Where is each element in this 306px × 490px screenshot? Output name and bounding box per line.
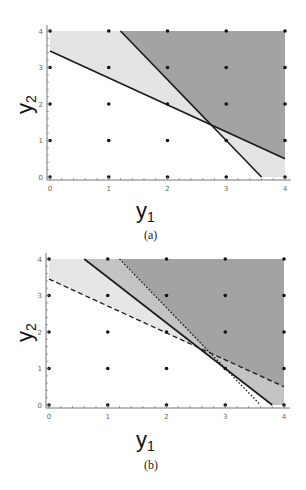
lattice-point bbox=[166, 102, 170, 106]
x-axis-title-a: y1 bbox=[136, 198, 155, 225]
lattice-point bbox=[106, 330, 110, 334]
lattice-point bbox=[166, 66, 170, 70]
panel-b: 0123401234 y1 y2 (b) bbox=[12, 253, 290, 472]
y-tick-label: 2 bbox=[39, 101, 43, 109]
caption-a: (a) bbox=[144, 228, 157, 242]
caption-b: (b) bbox=[144, 458, 158, 472]
x-tick-label: 0 bbox=[47, 413, 51, 421]
y-axis-title-b: y2 bbox=[12, 323, 39, 342]
lattice-point bbox=[106, 257, 110, 261]
y-tick-label: 1 bbox=[39, 137, 43, 145]
lattice-point bbox=[107, 29, 111, 33]
x-axis-title-b: y1 bbox=[136, 427, 155, 454]
lattice-point bbox=[165, 330, 169, 334]
lattice-point bbox=[282, 257, 286, 261]
x-tick-label: 3 bbox=[224, 185, 228, 193]
lattice-point bbox=[223, 257, 227, 261]
x-tick-label: 1 bbox=[106, 413, 110, 421]
lattice-point bbox=[224, 139, 228, 143]
lattice-point bbox=[283, 102, 287, 106]
figure: 0123401234 y1 y2 (a) 0123401234 y1 y2 (b… bbox=[0, 0, 306, 490]
lattice-point bbox=[283, 29, 287, 33]
y-tick-label: 3 bbox=[38, 292, 42, 300]
y-tick-label: 0 bbox=[39, 174, 43, 182]
lattice-point bbox=[283, 66, 287, 70]
panel-a: 0123401234 y1 y2 (a) bbox=[12, 25, 291, 242]
lattice-point bbox=[223, 367, 227, 371]
x-tick-label: 4 bbox=[283, 185, 288, 193]
lattice-point bbox=[107, 102, 111, 106]
lattice-point bbox=[107, 139, 111, 143]
x-tick-label: 4 bbox=[282, 413, 287, 421]
x-tick-label: 2 bbox=[165, 185, 169, 193]
x-tick-label: 2 bbox=[164, 413, 168, 421]
lattice-point bbox=[283, 139, 287, 143]
lattice-point bbox=[165, 367, 169, 371]
lattice-point bbox=[165, 294, 169, 298]
lattice-point bbox=[106, 367, 110, 371]
lattice-point bbox=[107, 66, 111, 70]
lattice-point bbox=[282, 294, 286, 298]
lattice-point bbox=[224, 29, 228, 33]
lattice-point bbox=[166, 139, 170, 143]
lattice-point bbox=[223, 330, 227, 334]
y-tick-label: 3 bbox=[39, 64, 43, 72]
lattice-point bbox=[166, 29, 170, 33]
x-tick-label: 1 bbox=[107, 185, 111, 193]
x-tick-label: 0 bbox=[48, 185, 52, 193]
lattice-point bbox=[106, 294, 110, 298]
y-axis-title-a: y2 bbox=[12, 95, 39, 114]
y-tick-label: 4 bbox=[39, 28, 44, 36]
y-tick-label: 4 bbox=[38, 256, 43, 264]
y-tick-label: 0 bbox=[38, 402, 42, 410]
lattice-point bbox=[165, 257, 169, 261]
lattice-point bbox=[224, 102, 228, 106]
lattice-point bbox=[282, 330, 286, 334]
lattice-point bbox=[223, 294, 227, 298]
y-tick-label: 1 bbox=[38, 365, 42, 373]
lattice-point bbox=[224, 66, 228, 70]
x-tick-label: 3 bbox=[223, 413, 227, 421]
lattice-point bbox=[282, 367, 286, 371]
